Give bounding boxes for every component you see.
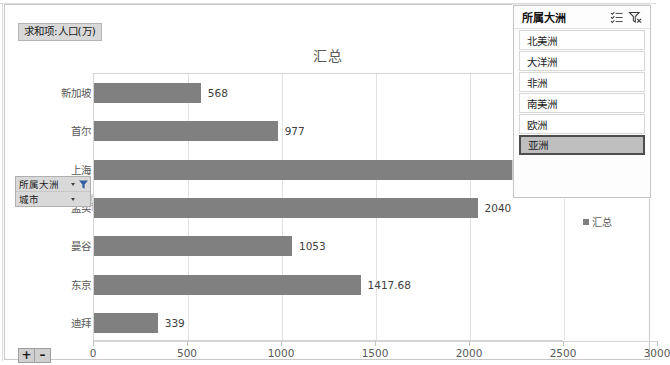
chart-legend[interactable]: 汇总	[583, 214, 612, 229]
bar[interactable]	[94, 160, 550, 180]
field-button-city[interactable]: 城市	[16, 192, 90, 206]
slicer-item[interactable]: 北美洲	[519, 30, 645, 50]
slicer-item[interactable]: 大洋洲	[519, 51, 645, 71]
bar[interactable]	[94, 236, 292, 256]
bar-value-label: 568	[208, 84, 228, 102]
bar[interactable]	[94, 83, 201, 103]
x-axis-tick	[469, 341, 470, 346]
slicer-item[interactable]: 亚洲	[519, 135, 645, 155]
chevron-down-icon	[71, 183, 75, 186]
field-button-continent-label: 所属大洲	[19, 177, 68, 191]
bar-row[interactable]: 24	[94, 151, 563, 189]
field-button-continent[interactable]: 所属大洲	[16, 177, 90, 192]
spacer	[78, 194, 89, 205]
bar-row[interactable]: 339	[94, 304, 563, 342]
bar-row[interactable]: 1053	[94, 227, 563, 265]
x-axis-tick-label: 0	[90, 347, 97, 359]
x-axis-tick-label: 3000	[644, 347, 670, 359]
bar[interactable]	[94, 121, 278, 141]
x-axis-tick	[375, 341, 376, 346]
x-axis-tick-label: 500	[177, 347, 197, 359]
legend-label: 汇总	[592, 217, 612, 228]
field-button-city-label: 城市	[19, 192, 68, 206]
bar[interactable]	[94, 198, 478, 218]
value-field-button[interactable]: 求和项:人口(万)	[18, 23, 102, 41]
x-axis-tick	[563, 341, 564, 346]
clear-filter-icon[interactable]	[626, 9, 644, 25]
legend-swatch-icon	[583, 219, 589, 225]
x-axis-tick-label: 1000	[268, 347, 295, 359]
x-axis: 050010001500200025003000	[93, 341, 657, 365]
bar-row[interactable]: 2040	[94, 189, 563, 227]
category-label: 东京	[7, 277, 91, 292]
slicer-item[interactable]: 南美洲	[519, 93, 645, 113]
x-axis-tick	[187, 341, 188, 346]
category-label: 迪拜	[7, 315, 91, 330]
filter-funnel-icon[interactable]	[78, 179, 89, 190]
bar-value-label: 1053	[299, 237, 326, 255]
left-rule	[2, 3, 3, 361]
bar-row[interactable]: 568	[94, 74, 563, 112]
expand-field-button[interactable]: +	[19, 349, 35, 362]
category-label: 首尔	[7, 123, 91, 138]
bar-value-label: 2040	[485, 199, 512, 217]
x-axis-tick-label: 2500	[550, 347, 577, 359]
slicer-item-list[interactable]: 北美洲大洋洲非洲南美洲欧洲亚洲	[514, 29, 650, 155]
pivot-field-buttons[interactable]: 所属大洲 城市	[15, 176, 91, 207]
bar-series[interactable]: 56897724204010531417.68339	[94, 74, 563, 340]
multi-select-icon[interactable]	[608, 9, 626, 25]
bar-row[interactable]: 1417.68	[94, 265, 563, 303]
category-axis: 新加坡首尔上海孟买曼谷东京迪拜	[5, 73, 91, 341]
bar[interactable]	[94, 313, 158, 333]
category-label: 新加坡	[7, 85, 91, 100]
x-axis-tick	[657, 341, 658, 346]
bar-row[interactable]: 977	[94, 112, 563, 150]
x-axis-tick	[281, 341, 282, 346]
bar-value-label: 977	[285, 122, 305, 140]
x-axis-tick-label: 2000	[456, 347, 483, 359]
expand-collapse-buttons[interactable]: + –	[18, 348, 51, 363]
bar-value-label: 1417.68	[368, 276, 411, 294]
bar-value-label: 339	[165, 314, 185, 332]
slicer-title: 所属大洲	[522, 9, 608, 25]
category-label: 曼谷	[7, 238, 91, 253]
x-axis-tick	[93, 341, 94, 346]
slicer-header: 所属大洲	[514, 6, 650, 29]
slicer-panel[interactable]: 所属大洲 北美洲大洋洲非洲南美洲欧洲亚洲	[513, 5, 651, 198]
slicer-item[interactable]: 欧洲	[519, 114, 645, 134]
category-label: 上海	[7, 162, 91, 177]
bar[interactable]	[94, 275, 361, 295]
x-axis-tick-label: 1500	[362, 347, 389, 359]
chevron-down-icon	[71, 198, 75, 201]
slicer-item[interactable]: 非洲	[519, 72, 645, 92]
plot-area[interactable]: 56897724204010531417.68339	[93, 73, 563, 341]
collapse-field-button[interactable]: –	[35, 349, 50, 362]
